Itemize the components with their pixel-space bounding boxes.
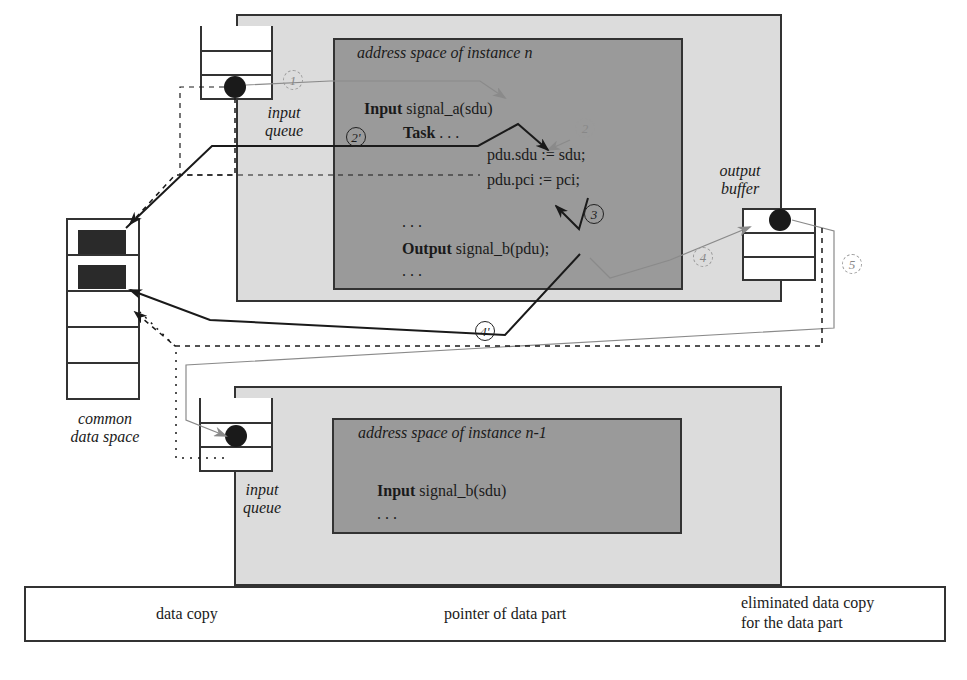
legend-eliminated-line-2: for the data part (741, 614, 843, 632)
legend-pointer-of-data-part: pointer of data part (444, 605, 566, 623)
step-4-prime-label: 4' (475, 321, 495, 341)
step-4-label: 4 (693, 247, 713, 267)
step-2-label: 2 (575, 118, 595, 138)
arrow-step-2 (548, 140, 570, 150)
step-2-prime-label: 2' (346, 127, 366, 147)
legend: data copy pointer of data part eliminate… (24, 586, 946, 642)
arrow-step-2-prime (126, 124, 548, 228)
input-queue-n1-token (225, 425, 247, 447)
arrow-step-5 (186, 220, 834, 436)
legend-eliminated-line-1: eliminated data copy (741, 594, 874, 612)
legend-data-copy: data copy (156, 605, 218, 623)
pointer-queue-n1-to-common (140, 312, 224, 458)
step-3-label: 3 (584, 204, 604, 224)
output-buffer-token (769, 209, 791, 231)
pointer-dashed-queue-n (180, 87, 480, 175)
step-5-label: 5 (842, 254, 862, 274)
pointer-to-block-1 (130, 98, 235, 224)
input-queue-n-token (224, 76, 246, 98)
arrow-step-4-prime (130, 254, 580, 335)
step-1-label: 1 (283, 70, 303, 90)
arrow-step-4 (590, 227, 750, 278)
